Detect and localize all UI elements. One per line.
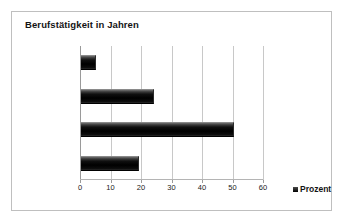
bar-segment[interactable] <box>81 89 154 104</box>
legend-swatch-icon <box>293 187 298 192</box>
x-axis: 0 10 20 30 40 50 60 <box>80 180 263 196</box>
bar-segment[interactable] <box>81 122 234 137</box>
bar-row: 5-10 Jahre <box>81 113 234 147</box>
chart-container: Berufstätigkeit in Jahren > 20 Jahre 11-… <box>11 11 332 211</box>
chart-legend: Prozent <box>293 185 331 194</box>
x-axis-tick-label: 20 <box>137 184 145 192</box>
x-axis-tick-label: 30 <box>167 184 175 192</box>
x-axis-tick-label: 0 <box>78 184 82 192</box>
gridline <box>263 46 264 180</box>
legend-label: Prozent <box>300 185 331 194</box>
x-axis-tick-label: 60 <box>259 184 267 192</box>
bar-row: < 5 Jahre <box>81 147 139 181</box>
x-axis-tick-label: 10 <box>106 184 114 192</box>
bar-segment[interactable] <box>81 156 139 171</box>
plot-area: > 20 Jahre 11-20 Jahre 5-10 Jahre < 5 Ja… <box>80 46 263 180</box>
bar-row: 11-20 Jahre <box>81 80 154 114</box>
chart-title: Berufstätigkeit in Jahren <box>25 19 139 30</box>
bar-segment[interactable] <box>81 55 96 70</box>
bar-row: > 20 Jahre <box>81 46 96 80</box>
x-axis-tick-label: 40 <box>198 184 206 192</box>
x-axis-tick-label: 50 <box>228 184 236 192</box>
